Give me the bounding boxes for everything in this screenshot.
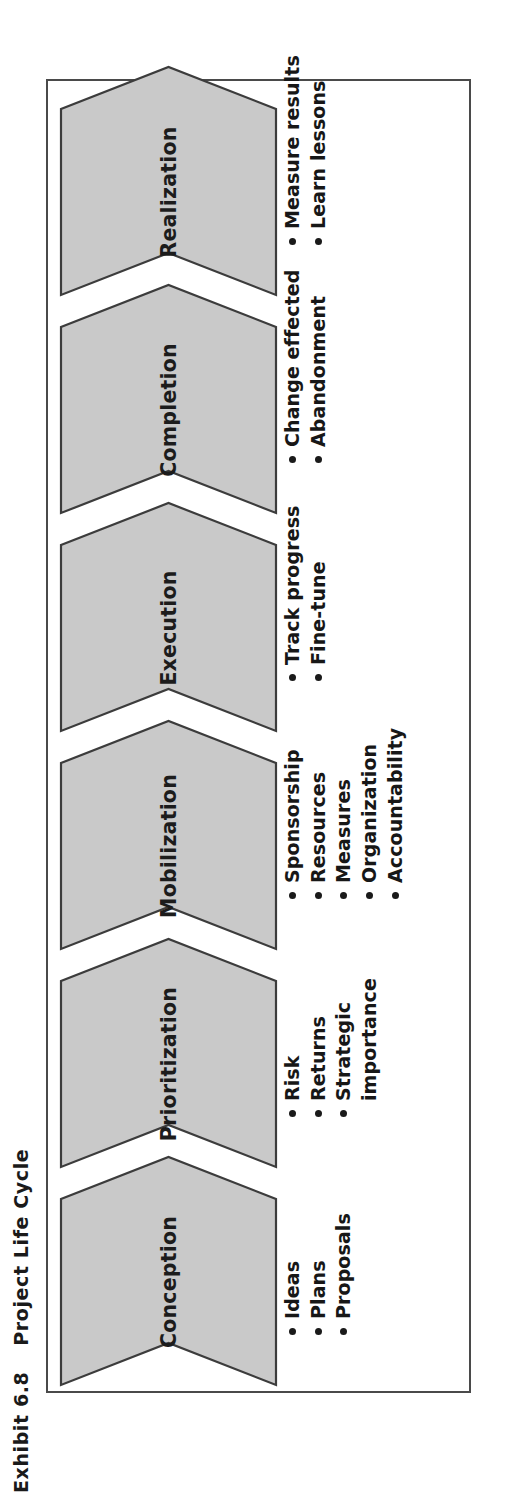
bullet-column-execution: Track progressFine-tune	[280, 453, 331, 681]
chevron-shape	[61, 721, 276, 949]
page-title: Exhibit 6.8Project Life Cycle	[10, 1149, 32, 1493]
figure-stage: Exhibit 6.8Project Life Cycle Conception…	[0, 0, 510, 1501]
list-item: Ideas	[280, 1107, 305, 1335]
bullet-label: Abandonment	[306, 235, 331, 447]
bullet-column-realization: Measure resultsLearn lessons	[280, 17, 331, 245]
bullet-dot-icon	[315, 1110, 322, 1117]
bullet-label: Strategic	[331, 889, 356, 1101]
bullet-column-prioritization: RiskReturnsStrategicimportance	[280, 889, 383, 1117]
list-item: Sponsorship	[280, 671, 305, 899]
bullet-label: Resources	[306, 671, 331, 883]
list-item: Proposals	[331, 1107, 356, 1335]
chevron-stage-completion[interactable]: Completion	[61, 285, 276, 513]
exhibit-number: Exhibit 6.8	[10, 1372, 32, 1493]
bullet-dot-icon	[289, 892, 296, 899]
bullet-dot-icon	[315, 238, 322, 245]
list-item: Change effected	[280, 235, 305, 463]
bullet-dot-icon	[315, 456, 322, 463]
list-item: Organization	[357, 671, 382, 899]
bullet-dot-icon	[366, 892, 373, 899]
bullet-label: Sponsorship	[280, 671, 305, 883]
bullet-dot-icon	[289, 238, 296, 245]
bullet-dot-icon	[315, 892, 322, 899]
bullet-dot-icon	[315, 1328, 322, 1335]
list-item: Resources	[306, 671, 331, 899]
bullet-dot-icon	[366, 1110, 373, 1117]
bullet-dot-icon	[340, 1328, 347, 1335]
figure-panel: ConceptionPrioritizationMobilizationExec…	[46, 79, 471, 1393]
bullet-dot-icon	[289, 1328, 296, 1335]
chevron-stage-conception[interactable]: Conception	[61, 1157, 276, 1385]
chevron-stage-realization[interactable]: Realization	[61, 67, 276, 295]
bullet-dot-icon	[315, 674, 322, 681]
bullet-label: Measures	[331, 671, 356, 883]
list-item: Risk	[280, 889, 305, 1117]
list-item: Strategic	[331, 889, 356, 1117]
list-item: Measure results	[280, 17, 305, 245]
bullet-label: Learn lessons	[306, 17, 331, 229]
chevron-shape	[61, 503, 276, 731]
bullet-dot-icon	[340, 1110, 347, 1117]
chevron-shape	[61, 1157, 276, 1385]
bullet-label: Proposals	[331, 1107, 356, 1319]
bullet-label: Organization	[357, 671, 382, 883]
bullet-dot-icon	[392, 892, 399, 899]
chevron-shape	[61, 939, 276, 1167]
exhibit-name: Project Life Cycle	[10, 1149, 32, 1346]
list-item: Learn lessons	[306, 17, 331, 245]
chevron-shape	[61, 67, 276, 295]
list-item: Accountability	[383, 671, 408, 899]
bullet-label: Fine-tune	[306, 453, 331, 665]
bullet-label: Plans	[306, 1107, 331, 1319]
bullet-row: IdeasPlansProposalsRiskReturnsStrategici…	[280, 81, 470, 1391]
bullet-column-conception: IdeasPlansProposals	[280, 1107, 357, 1335]
list-item: importance	[357, 889, 382, 1117]
list-item: Abandonment	[306, 235, 331, 463]
list-item: Track progress	[280, 453, 305, 681]
chevron-stage-mobilization[interactable]: Mobilization	[61, 721, 276, 949]
bullet-column-mobilization: SponsorshipResourcesMeasuresOrganization…	[280, 671, 408, 899]
bullet-dot-icon	[289, 674, 296, 681]
bullet-label: Ideas	[280, 1107, 305, 1319]
bullet-label: Change effected	[280, 235, 305, 447]
bullet-label: Accountability	[383, 671, 408, 883]
list-item: Measures	[331, 671, 356, 899]
bullet-label: importance	[357, 889, 382, 1101]
bullet-column-completion: Change effectedAbandonment	[280, 235, 331, 463]
bullet-label: Risk	[280, 889, 305, 1101]
bullet-label: Returns	[306, 889, 331, 1101]
list-item: Fine-tune	[306, 453, 331, 681]
list-item: Plans	[306, 1107, 331, 1335]
bullet-label: Measure results	[280, 17, 305, 229]
chevron-stage-execution[interactable]: Execution	[61, 503, 276, 731]
bullet-dot-icon	[340, 892, 347, 899]
chevron-band: ConceptionPrioritizationMobilizationExec…	[61, 81, 276, 1391]
bullet-dot-icon	[289, 1110, 296, 1117]
chevron-shape	[61, 285, 276, 513]
bullet-dot-icon	[289, 456, 296, 463]
bullet-label: Track progress	[280, 453, 305, 665]
chevron-stage-prioritization[interactable]: Prioritization	[61, 939, 276, 1167]
list-item: Returns	[306, 889, 331, 1117]
